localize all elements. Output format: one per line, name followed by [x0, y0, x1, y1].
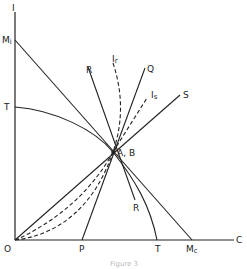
line-r	[88, 67, 135, 200]
line-o-s	[15, 95, 180, 240]
x-axis-label: C	[236, 235, 242, 245]
point-ab	[111, 150, 115, 154]
origin-label: O	[4, 244, 11, 254]
label-mi: Mi	[2, 35, 12, 46]
label-q: Q	[147, 64, 154, 74]
label-ab: A, B	[117, 148, 135, 158]
label-r-top: R	[86, 65, 92, 75]
y-axis-label: I	[12, 3, 15, 13]
label-p: P	[79, 244, 85, 254]
label-mc: Mc	[186, 244, 198, 255]
label-is: Is	[151, 90, 158, 101]
label-s: S	[183, 90, 189, 100]
label-ir: Ir	[112, 54, 118, 65]
curve-t	[15, 107, 157, 240]
figure-caption: Figure 3	[110, 260, 138, 268]
label-r-bottom: R	[133, 203, 139, 213]
diagram: I C O Mi T P T Mc R R Q S Ir Is A, B Fig…	[0, 0, 247, 269]
line-is	[113, 98, 147, 152]
label-t-y: T	[3, 102, 10, 112]
label-t-x: T	[154, 244, 161, 254]
line-mi-mc	[15, 40, 192, 240]
